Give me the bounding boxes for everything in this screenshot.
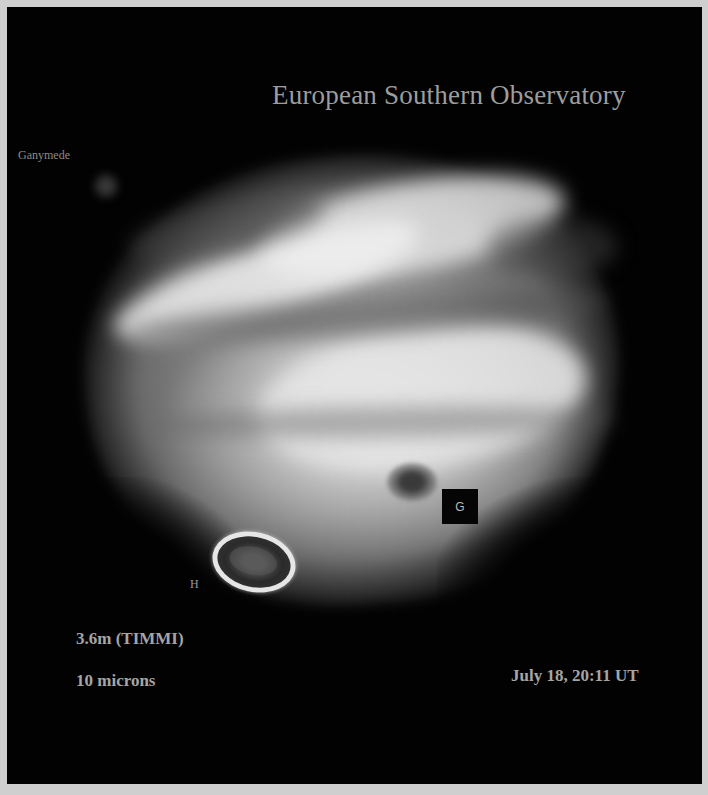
instrument-label: 3.6m (TIMMI) [76,629,184,649]
timestamp-label: July 18, 20:11 UT [511,666,639,686]
impact-g-label: G [455,500,464,514]
impact-h-label: H [190,577,199,592]
ganymede-label: Ganymede [18,148,70,163]
dark-band [487,217,617,277]
impact-site-h-core [227,542,280,579]
observatory-title: European Southern Observatory [272,80,626,111]
wavelength-label: 10 microns [76,671,156,691]
image-frame: European Southern Observatory Ganymede G… [7,7,702,784]
impact-g-label-box: G [442,489,478,524]
ganymede-moon [95,175,117,197]
impact-site-g [387,463,437,501]
